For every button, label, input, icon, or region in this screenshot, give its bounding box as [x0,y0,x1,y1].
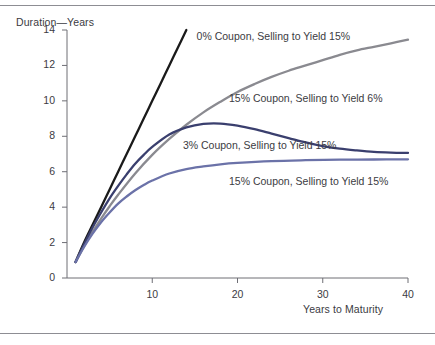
axes-group [62,30,408,283]
x-axis-tick-label: 20 [224,288,252,300]
series-label-3: 3% Coupon, Selling to Yield 15% [183,139,337,151]
x-axis-title: Years to Maturity [303,303,383,315]
y-axis-tick-label: 2 [31,236,55,248]
y-axis-tick-label: 0 [31,271,55,283]
y-axis-tick-label: 12 [31,58,55,70]
x-axis-tick-label: 40 [394,288,422,300]
y-axis-tick-label: 8 [31,129,55,141]
y-axis-tick-label: 14 [31,23,55,35]
x-axis-tick-label: 10 [138,288,166,300]
x-axis-tick-label: 30 [309,288,337,300]
series-label-4: 15% Coupon, Selling to Yield 15% [229,175,388,187]
series-label-2: 15% Coupon, Selling to Yield 6% [229,92,383,104]
y-axis-tick-label: 10 [31,94,55,106]
plot-area [0,0,435,345]
bond-duration-chart-figure: Duration—Years Years to Maturity 0246810… [0,0,435,345]
y-axis-title: Duration—Years [16,16,94,28]
series-label-1: 0% Coupon, Selling to Yield 15% [197,30,351,42]
y-axis-tick-label: 6 [31,165,55,177]
y-axis-tick-label: 4 [31,200,55,212]
y-axis-ticks [62,30,67,278]
x-axis-ticks [152,278,408,283]
